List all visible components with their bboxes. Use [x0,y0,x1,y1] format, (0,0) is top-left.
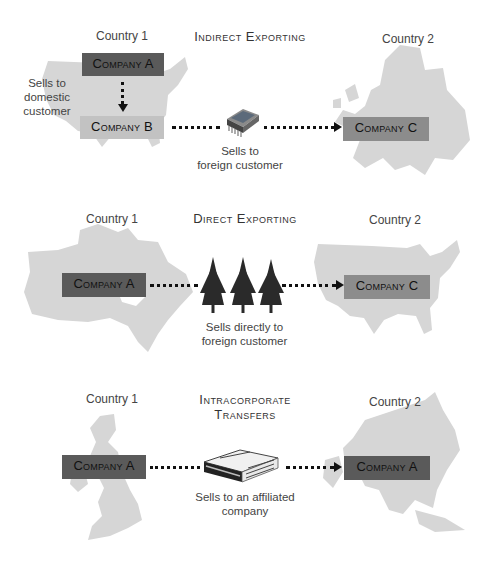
company-a-box: Company A [62,455,146,479]
country-1-label: Country 1 [82,29,162,43]
caption-line: Sells to an affiliated [180,490,310,504]
country-1-label: Country 1 [72,212,152,226]
company-c-box: Company C [343,117,429,141]
company-a-box: Company A [82,53,164,76]
pine-trees-icon [198,255,288,315]
microchip-icon [221,107,261,141]
affiliate-caption: Sells to an affiliated company [180,490,310,518]
company-b-box: Company B [80,116,164,139]
country-2-label: Country 2 [355,395,435,409]
vertical-dotted-arrow [121,82,124,104]
caption-line: customer [18,104,76,118]
section-title: Intracorporate Transfers [172,392,318,422]
caption-line: Sells directly to [182,320,307,334]
company-a-box: Company A [62,273,146,297]
dotted-arrow-line [286,466,334,469]
company-a-box: Company A [344,456,430,480]
company-c-box: Company C [344,275,430,299]
newspaper-icon [200,448,282,486]
country-1-label: Country 1 [72,392,152,406]
arrowhead-right-icon [334,462,342,472]
arrowhead-right-icon [334,122,342,132]
caption-line: foreign customer [185,158,295,172]
section-title: Indirect Exporting [180,29,320,44]
domestic-caption: Sells to domestic customer [18,76,76,118]
caption-line: foreign customer [182,334,307,348]
dotted-arrow-line [150,466,200,469]
dotted-arrow-line [150,284,198,287]
country-2-label: Country 2 [368,32,448,46]
foreign-caption: Sells to foreign customer [185,144,295,172]
dotted-arrow-line [264,126,334,129]
caption-line: company [180,504,310,518]
foreign-caption: Sells directly to foreign customer [182,320,307,348]
europe-map [325,40,475,180]
country-2-label: Country 2 [355,213,435,227]
caption-line: Sells to [185,144,295,158]
section-title: Direct Exporting [185,211,305,226]
caption-line: domestic [18,90,76,104]
dotted-arrow-line [282,284,336,287]
dotted-arrow-line [172,126,220,129]
caption-line: Sells to [18,76,76,90]
arrowhead-right-icon [336,280,344,290]
arrowhead-down-icon [118,104,128,112]
